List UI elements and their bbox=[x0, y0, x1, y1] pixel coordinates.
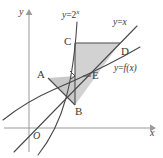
identity-line-label: y=x bbox=[113, 18, 127, 28]
point-label-a: A bbox=[37, 69, 45, 80]
point-label-d: D bbox=[121, 46, 129, 57]
y-axis-label: y bbox=[19, 7, 23, 17]
exponential-label-exponent: x bbox=[76, 8, 79, 16]
y-axis-arrow bbox=[26, 9, 33, 15]
inverse-curve-label: y=f(x) bbox=[114, 64, 137, 74]
point-label-b: B bbox=[75, 106, 82, 117]
identity-label-rhs: x bbox=[123, 17, 127, 27]
origin-label: O bbox=[33, 131, 40, 141]
inverse-label-rhs: f(x) bbox=[124, 63, 137, 73]
exponential-curve-label: y=2x bbox=[62, 9, 79, 21]
figure-canvas bbox=[0, 0, 163, 158]
point-label-e: E bbox=[92, 70, 99, 81]
x-axis-label: x bbox=[150, 128, 154, 138]
point-label-c: C bbox=[64, 36, 71, 47]
math-figure: y x O y=2x y=x y=f(x) A B C D E bbox=[0, 0, 163, 158]
